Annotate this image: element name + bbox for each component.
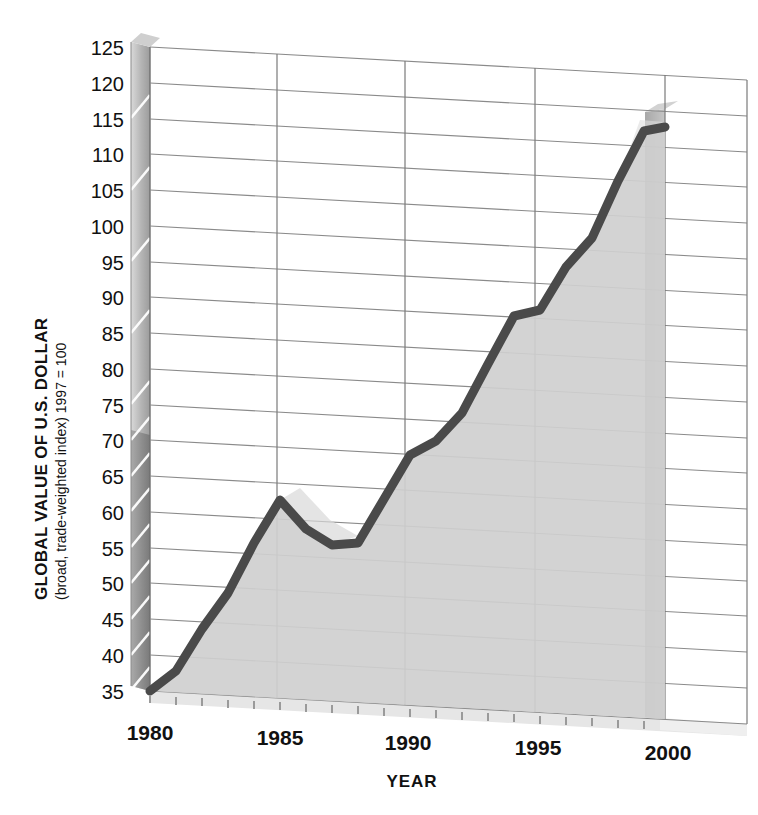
- y-tick-label: 70: [102, 430, 124, 452]
- x-axis-title: YEAR: [386, 772, 437, 791]
- y-axis-subtitle: (broad, trade-weighted index) 1997 = 100: [53, 343, 69, 600]
- y-tick-label: 45: [102, 609, 124, 631]
- x-tick-label: 2000: [645, 741, 692, 764]
- x-tick-label: 1985: [257, 726, 304, 749]
- chart-container: 125 120 115 110 105 100 95 90 85 80 75 7…: [0, 0, 758, 815]
- y-tick-label: 115: [92, 109, 124, 131]
- y-tick-label: 40: [102, 645, 124, 667]
- y-tick-label: 100: [91, 216, 124, 238]
- line-area-chart: 125 120 115 110 105 100 95 90 85 80 75 7…: [0, 0, 758, 815]
- y-tick-label: 35: [102, 681, 124, 703]
- y-tick-label: 125: [91, 37, 124, 59]
- y-tick-label: 75: [102, 395, 124, 417]
- x-tick-label: 1995: [515, 736, 562, 759]
- y-tick-label: 55: [102, 538, 124, 560]
- y-tick-label: 85: [102, 323, 124, 345]
- y-axis-title: GLOBAL VALUE OF U.S. DOLLAR: [32, 318, 51, 600]
- y-tick-label: 60: [102, 502, 124, 524]
- x-tick-label: 1990: [385, 731, 432, 754]
- y-tick-label: 120: [91, 73, 124, 95]
- y-tick-label: 80: [102, 359, 124, 381]
- x-tick-label: 1980: [127, 721, 174, 744]
- y-tick-label: 65: [102, 466, 124, 488]
- y-tick-label: 110: [92, 144, 124, 166]
- y-tick-label: 95: [102, 252, 124, 274]
- y-tick-label: 105: [91, 180, 124, 202]
- y-axis-ticks: 125 120 115 110 105 100 95 90 85 80 75 7…: [91, 37, 124, 703]
- y-tick-label: 50: [102, 573, 124, 595]
- y-tick-label: 90: [102, 287, 124, 309]
